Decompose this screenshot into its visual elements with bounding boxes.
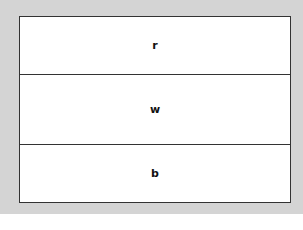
section-label: b bbox=[151, 167, 159, 180]
section-label: r bbox=[152, 39, 157, 52]
section-w: w bbox=[20, 75, 290, 145]
section-r: r bbox=[20, 17, 290, 75]
stacked-boxes: r w b bbox=[19, 16, 291, 203]
section-b: b bbox=[20, 145, 290, 202]
section-label: w bbox=[150, 103, 160, 116]
